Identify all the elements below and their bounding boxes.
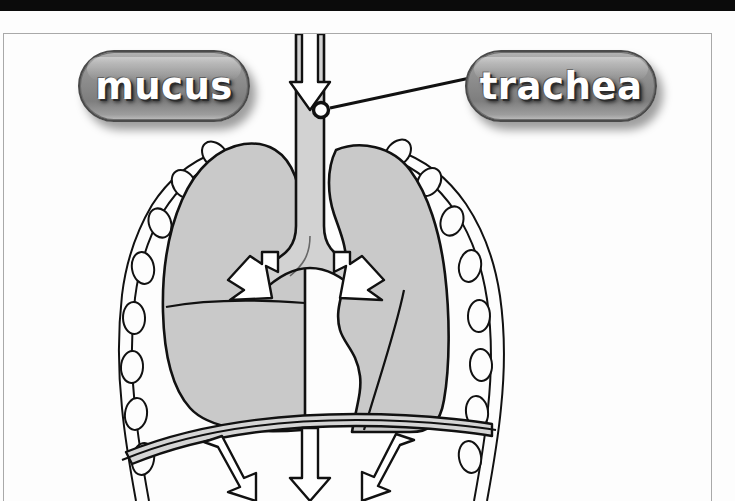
diaphragm-arrow-center	[290, 428, 330, 501]
callout-label-mucus: mucus	[95, 68, 233, 105]
callout-pill-trachea[interactable]: trachea	[465, 50, 657, 122]
callout-label-trachea: trachea	[480, 68, 643, 105]
diaphragm-arrow-left	[204, 436, 256, 501]
diaphragm-arrow-right	[362, 434, 414, 501]
callout-pill-mucus[interactable]: mucus	[78, 50, 250, 122]
figure-page: mucus trachea	[0, 0, 735, 501]
trachea-leader-line	[314, 78, 471, 118]
